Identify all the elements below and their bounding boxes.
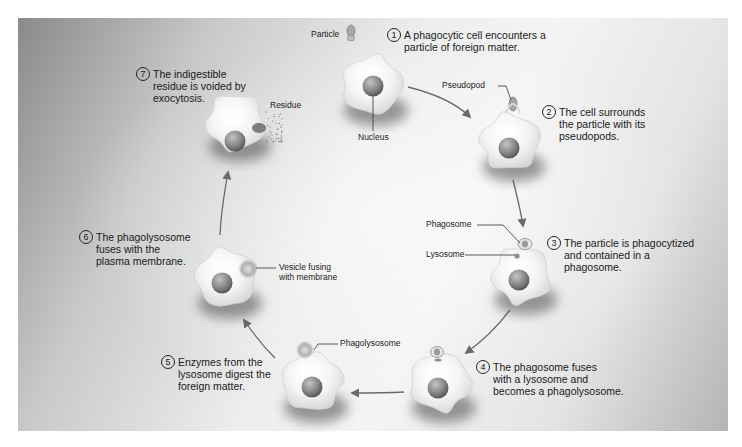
residue-dot [268,136,269,137]
step-3: 3 The particle is phagocytized and conta… [547,237,694,273]
residue-dot [278,140,279,141]
residue-dot [280,114,281,115]
step-5: 5 Enzymes from the lysosome digest the f… [161,356,271,392]
cell-step-4 [411,347,477,423]
residue-dot [274,140,275,141]
residue-dot [281,124,282,125]
step-number-3: 3 [547,236,561,250]
label-leader-lines [256,86,520,350]
nucleus [509,270,530,291]
residue-dot [281,135,282,136]
nucleus [302,377,323,398]
residue-dot [281,141,282,142]
phagosome-leader [477,225,520,243]
step-number-1: 1 [387,28,401,42]
residue-dot [281,132,282,133]
residue-dot [267,125,268,126]
residue-dot [281,137,282,138]
nucleus [499,138,520,159]
residue-dot [266,139,267,140]
nucleus [363,76,384,97]
residue-dot [273,116,274,117]
label-pseudopod: Pseudopod [442,81,485,91]
step-text-4: The phagosome fuses with a lysosome and … [476,361,624,397]
step-text-3: The particle is phagocytized and contain… [547,237,694,273]
residue-dot [269,130,270,131]
residue-dot [281,118,282,119]
label-residue: Residue [270,101,301,111]
residue-dot [271,139,272,140]
residue-dot [280,139,281,140]
step-number-4: 4 [476,360,490,374]
label-nucleus: Nucleus [358,133,389,143]
arrow-4-to-5 [352,392,404,393]
residue-dot [280,127,281,128]
residue-dot [273,141,274,142]
residue-vesicle-icon [252,123,266,133]
nucleus [225,131,246,152]
pseudopod-leader [498,86,511,100]
label-particle: Particle [311,30,339,40]
residue-dot [265,111,266,112]
residue-dot [274,114,275,115]
residue-dot [277,128,278,129]
residue-dot [279,123,280,124]
arrow-1-to-2 [408,87,470,117]
step-2: 2 The cell surrounds the particle with i… [542,106,645,142]
arrow-3-to-4 [466,310,510,353]
residue-dot [266,141,267,142]
step-4: 4 The phagosome fuses with a lysosome an… [476,361,624,397]
residue-dot [276,138,277,139]
cell-step-2 [479,97,546,182]
cell-step-6 [194,247,262,319]
step-text-7: The indigestible residue is voided by ex… [136,68,246,104]
label-phagosome: Phagosome [426,220,471,230]
phagosome-particle-icon [522,241,528,248]
residue-dot [275,122,276,123]
arrow-6-to-7 [220,172,228,235]
step-6: 6 The phagolysosome fuses with the plasm… [79,231,191,267]
label-lysosome: Lysosome [426,250,464,260]
step-number-7: 7 [136,67,150,81]
nucleus [212,273,233,294]
label-phagolysosome: Phagolysosome [340,339,400,349]
nucleus [428,378,449,399]
step-1: 1 A phagocytic cell encounters a particl… [387,29,546,53]
residue-dot [270,126,271,127]
phagolysosome-icon [298,343,312,357]
residue-dot [280,141,281,142]
residue-dot [276,134,277,135]
residue-dot [271,135,272,136]
particle-icon-part [348,35,355,41]
residue-dot [278,138,279,139]
phagocytosis-cycle-diagram [0,0,742,447]
fusing-lysosome-icon [435,358,442,361]
cell-step-5 [282,343,348,423]
residue-dot [272,120,273,121]
step-number-5: 5 [161,355,175,369]
lysosome-icon [514,253,519,258]
step-number-6: 6 [79,230,93,244]
step-text-5: Enzymes from the lysosome digest the for… [161,356,271,392]
residue-dot [268,118,269,119]
phagolysosome-leader [314,344,338,350]
label-vesicle: Vesicle fusing with membrane [279,263,337,282]
step-7: 7 The indigestible residue is voided by … [136,68,246,104]
residue-dot [281,140,282,141]
phagosome-particle-icon [434,349,440,356]
arrow-5-to-6 [244,320,275,358]
step-number-2: 2 [542,105,556,119]
step-text-6: The phagolysosome fuses with the plasma … [79,231,191,267]
step-text-1: A phagocytic cell encounters a particle … [387,29,546,53]
step-text-2: The cell surrounds the particle with its… [542,106,645,142]
residue-particles-icon [265,111,282,142]
residue-dot [278,116,279,117]
residue-dot [270,132,271,133]
vesicle-icon [241,262,256,277]
arrow-2-to-3 [513,180,523,226]
residue-dot [281,131,282,132]
